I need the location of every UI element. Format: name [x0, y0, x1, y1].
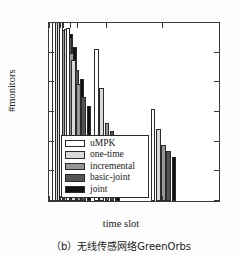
bar-group-16 [151, 23, 177, 201]
x-tick-top-2 [63, 23, 64, 28]
chart-legend: uMPKone-timeincrementalbasic-jointjoint [61, 135, 149, 199]
x-tick-top-24 [219, 23, 220, 28]
x-tick-24 [219, 196, 220, 201]
x-tick-top-16 [162, 23, 163, 28]
legend-swatch-incremental [65, 163, 85, 171]
legend-swatch-joint [65, 186, 85, 194]
x-tick-top-3 [70, 23, 71, 28]
y-axis-title: #monitors [6, 69, 17, 112]
legend-label-uMPK: uMPK [90, 139, 115, 149]
figure-panel: #monitors 050100150200250300 01.52348162… [0, 0, 242, 257]
y-tick-right-50 [214, 170, 219, 171]
x-tick-top-8 [106, 23, 107, 28]
y-tick-right-100 [214, 141, 219, 142]
legend-item-one-time: one-time [65, 149, 145, 161]
y-tick-right-250 [214, 52, 219, 53]
legend-label-one-time: one-time [90, 150, 124, 160]
x-axis-title: time slot [0, 218, 242, 229]
legend-item-basic-joint: basic-joint [65, 172, 145, 184]
legend-swatch-uMPK [65, 140, 85, 148]
plot-area: 050100150200250300 01.523481624 uMPKone-… [48, 22, 220, 202]
figure-caption: （b）无线传感网络GreenOrbs [0, 238, 242, 253]
bar-one-time-16 [156, 129, 161, 201]
legend-item-joint: joint [65, 184, 145, 196]
legend-item-uMPK: uMPK [65, 138, 145, 150]
y-tick-200 [49, 81, 54, 82]
y-tick-100 [49, 141, 54, 142]
x-tick-top-4 [77, 23, 78, 28]
x-tick-16 [162, 196, 163, 201]
legend-label-incremental: incremental [90, 162, 135, 172]
bar-uMPK-16 [151, 109, 156, 201]
x-tick-top-0 [49, 23, 50, 28]
bar-joint-16 [172, 157, 177, 201]
bar-incremental-16 [161, 145, 166, 201]
legend-swatch-basic-joint [65, 174, 85, 182]
x-tick-top-1.5 [60, 23, 61, 28]
y-tick-250 [49, 52, 54, 53]
legend-label-basic-joint: basic-joint [90, 173, 130, 183]
y-tick-150 [49, 111, 54, 112]
y-tick-right-200 [214, 81, 219, 82]
legend-item-incremental: incremental [65, 161, 145, 173]
y-tick-right-150 [214, 111, 219, 112]
y-tick-50 [49, 170, 54, 171]
bar-basic-joint-16 [166, 151, 171, 201]
legend-label-joint: joint [90, 185, 107, 195]
x-tick-0 [49, 196, 50, 201]
legend-swatch-one-time [65, 151, 85, 159]
